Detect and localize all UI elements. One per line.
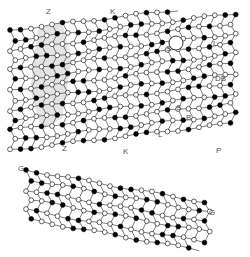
defect-label-z1: Z: [46, 8, 51, 16]
defect-label-k2: K: [123, 148, 128, 156]
defect-label-l2: L: [158, 131, 162, 139]
defect-label-g2: G: [209, 209, 215, 217]
lattice-diagram: ZKSLDBSBLKZPGG: [0, 0, 250, 257]
defect-label-p1: P: [216, 147, 221, 155]
defect-label-db: DB: [215, 75, 226, 83]
defect-label-b1: B: [186, 114, 191, 122]
defect-label-s1: S: [166, 45, 171, 53]
defect-label-z2: Z: [62, 145, 67, 153]
defect-label-g1: G: [18, 165, 24, 173]
defect-label-k1: K: [110, 8, 115, 16]
defect-label-s2: S: [176, 104, 181, 112]
defect-label-l1: L: [213, 40, 217, 48]
